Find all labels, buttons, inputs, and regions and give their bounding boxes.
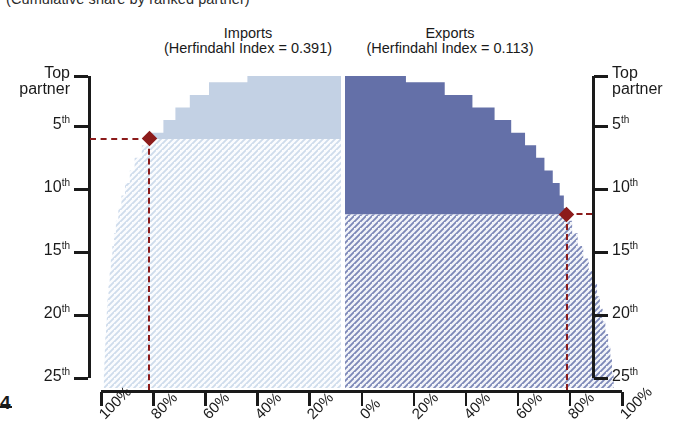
y-label-left-5: 5th — [53, 115, 70, 133]
y-label-right-20: 20th — [612, 304, 638, 322]
exports-panel-title: Exports (Herfindahl Index = 0.113) — [335, 26, 565, 56]
y-label-left-10: 10th — [44, 178, 70, 196]
chart-figure: (Cumulative share by ranked partner) 4 I… — [0, 0, 681, 447]
y-axis-left-spine — [88, 76, 91, 378]
imports-leader-vertical — [148, 139, 150, 390]
exports-herfindahl-label: (Herfindahl Index = 0.113) — [335, 41, 565, 56]
exports-title-text: Exports — [335, 26, 565, 41]
y-label-right-25: 25th — [612, 367, 638, 385]
y-label-right-1: Toppartner — [612, 65, 663, 97]
y-tick-left-10 — [74, 188, 88, 191]
y-tick-left-15 — [74, 251, 88, 254]
x-label-10: 100% — [616, 383, 655, 422]
y-tick-left-1 — [74, 75, 88, 78]
exports-leader-vertical — [566, 214, 568, 390]
imports-herfindahl-label: (Herfindahl Index = 0.391) — [153, 41, 343, 56]
imports-title-text: Imports — [153, 26, 343, 41]
y-tick-left-25 — [74, 377, 88, 380]
exports-80pct-marker — [559, 207, 575, 223]
y-label-right-10: 10th — [612, 178, 638, 196]
y-label-right-15: 15th — [612, 241, 638, 259]
y-tick-right-25 — [594, 377, 608, 380]
corner-panel-label: 4 — [0, 392, 11, 414]
y-label-left-20: 20th — [44, 304, 70, 322]
imports-80pct-marker — [141, 131, 157, 147]
y-tick-right-15 — [594, 251, 608, 254]
y-label-right-5: 5th — [612, 115, 629, 133]
y-tick-right-10 — [594, 188, 608, 191]
y-tick-right-20 — [594, 314, 608, 317]
x-label-0: 100% — [95, 383, 134, 422]
y-tick-left-5 — [74, 125, 88, 128]
y-tick-right-5 — [594, 125, 608, 128]
y-label-left-15: 15th — [44, 241, 70, 259]
imports-panel-title: Imports (Herfindahl Index = 0.391) — [153, 26, 343, 56]
y-tick-right-1 — [594, 75, 608, 78]
y-label-left-25: 25th — [44, 367, 70, 385]
y-tick-left-20 — [74, 314, 88, 317]
y-axis-right-spine — [592, 76, 595, 378]
imports-leader-horizontal — [90, 138, 149, 140]
y-label-left-1: Toppartner — [19, 65, 70, 97]
plot-area — [0, 0, 681, 447]
figure-caption: (Cumulative share by ranked partner) — [6, 0, 250, 7]
